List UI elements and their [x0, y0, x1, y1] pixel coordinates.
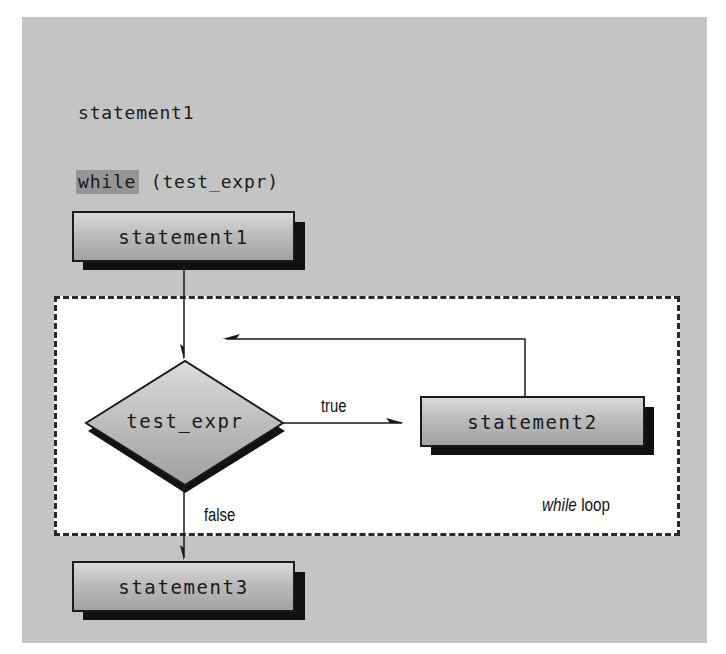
- statement2-label: statement2: [467, 411, 597, 433]
- edge-test-expr-to-statement2: [283, 418, 404, 423]
- false-edge-label: false: [204, 505, 235, 526]
- statement1-label: statement1: [118, 226, 248, 248]
- edge-test-expr-to-statement3: [180, 486, 184, 561]
- while-loop-caption-text: loop: [577, 495, 610, 515]
- true-edge-label: true: [321, 396, 346, 417]
- statement3-box: statement3: [72, 561, 295, 612]
- edge-statement2-loop-back: [222, 334, 525, 396]
- flowchart-connectors: [0, 0, 726, 654]
- while-loop-caption: while loop: [542, 495, 610, 516]
- edge-statement1-to-test-expr: [180, 262, 184, 360]
- statement1-box: statement1: [72, 211, 295, 262]
- statement2-box: statement2: [420, 396, 645, 447]
- test-expr-label: test_expr: [106, 410, 264, 432]
- statement3-label: statement3: [118, 576, 248, 598]
- while-loop-caption-keyword: while: [542, 495, 577, 515]
